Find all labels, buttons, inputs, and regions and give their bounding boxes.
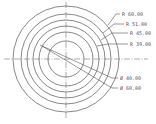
leader-d40 xyxy=(40,45,112,78)
label-r39: R 39.00 xyxy=(130,41,151,47)
dimension-drawing: R 60.00 R 51.00 R 45.00 R 39.00 Ø 40.00 … xyxy=(0,0,156,124)
leader-r39 xyxy=(97,44,128,46)
label-r51: R 51.00 xyxy=(126,21,147,27)
label-r45: R 45.00 xyxy=(130,30,151,36)
label-r60: R 60.00 xyxy=(122,11,143,17)
label-d60: Ø 60.00 xyxy=(120,85,141,91)
leader-r60 xyxy=(108,14,120,25)
label-d40: Ø 40.00 xyxy=(120,75,141,81)
leader-r51 xyxy=(103,24,124,33)
leader-d60 xyxy=(42,46,112,88)
